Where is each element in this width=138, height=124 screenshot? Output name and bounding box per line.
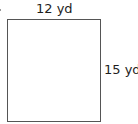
- rectangle-shape: [7, 19, 101, 122]
- width-label: 12 yd: [36, 1, 73, 16]
- stray-dot: [0, 9, 1, 11]
- height-label: 15 yd: [104, 62, 138, 77]
